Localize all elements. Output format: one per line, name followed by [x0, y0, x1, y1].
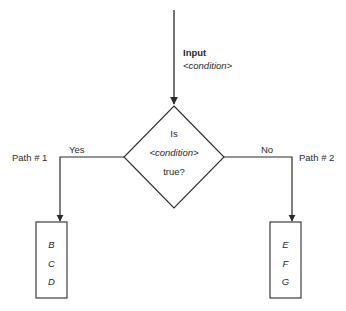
path-2-label: Path # 2	[299, 152, 334, 163]
decision-text-line3: true?	[163, 166, 185, 177]
decision-text-line2: <condition>	[149, 147, 199, 158]
path-1-item: B	[48, 239, 55, 250]
yes-branch-arrow	[60, 157, 124, 221]
input-label: Input	[183, 47, 207, 58]
path-2-item: E	[282, 239, 289, 250]
decision-text-line1: Is	[170, 128, 178, 139]
input-condition-label: <condition>	[183, 60, 233, 71]
path-1-item: C	[48, 258, 55, 269]
path-1-label: Path # 1	[12, 152, 47, 163]
no-edge-label: No	[261, 144, 273, 155]
yes-edge-label: Yes	[69, 144, 85, 155]
no-branch-arrow	[224, 157, 292, 221]
path-2-item: G	[282, 276, 289, 287]
flowchart: Input <condition> Is <condition> true? Y…	[0, 0, 346, 311]
path-1-item: D	[48, 276, 55, 287]
